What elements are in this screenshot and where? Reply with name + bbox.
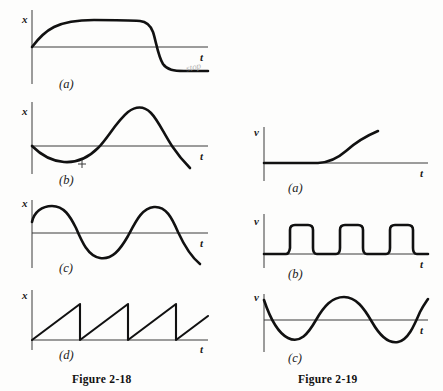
x-axis-label-2-18-c: t bbox=[200, 238, 203, 249]
waveform-svg-2-19-a bbox=[254, 125, 434, 187]
plot-fig-2-19-a: v t bbox=[254, 125, 434, 187]
y-axis-label-2-18-b: x bbox=[22, 106, 28, 117]
panel-label-2-19-a: (a) bbox=[288, 182, 303, 195]
plot-fig-2-18-c: x t bbox=[24, 198, 214, 272]
x-axis-label-2-18-d: t bbox=[200, 344, 203, 355]
waveform-curve-2-19-b bbox=[264, 225, 428, 254]
waveform-svg-2-18-a bbox=[24, 8, 214, 88]
x-axis-label-2-18-b: t bbox=[200, 151, 203, 162]
y-axis-label-2-18-a: x bbox=[22, 14, 28, 25]
waveform-svg-2-19-b bbox=[254, 212, 434, 274]
y-axis-label-2-19-c: v bbox=[254, 292, 259, 303]
plot-fig-2-18-a: x t bbox=[24, 8, 214, 88]
panel-label-2-18-d: (d) bbox=[59, 349, 74, 362]
waveform-svg-2-18-d bbox=[24, 288, 214, 358]
figure-caption-2-18: Figure 2-18 bbox=[72, 373, 132, 385]
figure-2-19-group: v t (a) v t (b) v t (c) Figure 2-1 bbox=[232, 0, 443, 391]
waveform-svg-2-18-c bbox=[24, 198, 214, 272]
plot-fig-2-19-b: v t bbox=[254, 212, 434, 274]
waveform-svg-2-18-b bbox=[24, 100, 214, 178]
panel-label-2-18-c: (c) bbox=[59, 262, 73, 275]
waveform-curve-2-19-a bbox=[264, 131, 378, 163]
textbook-figure-page: x t (a) stop x t (b) x t ( bbox=[0, 0, 443, 391]
panel-label-2-19-b: (b) bbox=[288, 268, 303, 281]
waveform-curve-2-18-b bbox=[32, 108, 190, 168]
figure-2-18-group: x t (a) stop x t (b) x t ( bbox=[0, 0, 232, 391]
plot-fig-2-19-c: v t bbox=[254, 292, 434, 358]
waveform-svg-2-19-c bbox=[254, 292, 434, 358]
waveform-curve-2-18-a bbox=[32, 20, 208, 71]
y-axis-label-2-18-d: x bbox=[22, 290, 28, 301]
x-axis-label-2-19-a: t bbox=[420, 168, 423, 179]
x-axis-label-2-18-a: t bbox=[200, 52, 203, 63]
plot-fig-2-18-d: x t bbox=[24, 288, 214, 358]
waveform-curve-2-18-c bbox=[32, 206, 200, 264]
waveform-curve-2-18-d bbox=[32, 304, 208, 340]
y-axis-label-2-18-c: x bbox=[22, 198, 28, 209]
plot-fig-2-18-b: x t bbox=[24, 100, 214, 178]
panel-label-2-18-b: (b) bbox=[59, 174, 74, 187]
figure-caption-2-19: Figure 2-19 bbox=[298, 373, 358, 385]
x-axis-label-2-19-b: t bbox=[420, 259, 423, 270]
x-axis-label-2-19-c: t bbox=[420, 325, 423, 336]
y-axis-label-2-19-a: v bbox=[254, 127, 259, 138]
panel-label-2-19-c: (c) bbox=[288, 352, 302, 365]
y-axis-label-2-19-b: v bbox=[254, 216, 259, 227]
panel-label-2-18-a: (a) bbox=[59, 78, 74, 91]
